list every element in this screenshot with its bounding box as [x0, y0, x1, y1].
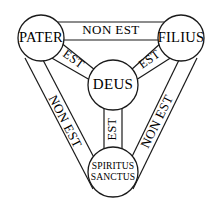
diagram-canvas: PATER FILIUS DEUS SPIRITUS SANCTUS NON E…	[0, 0, 222, 207]
band-label-pater-spiritus: NON EST	[45, 92, 85, 150]
band-label-pater-filius: NON EST	[82, 22, 139, 37]
band-label-pater-deus: EST	[60, 47, 87, 72]
node-label-spiritus-line1: SPIRITUS	[92, 160, 134, 171]
node-label-deus: DEUS	[93, 76, 133, 92]
node-label-pater: PATER	[19, 29, 63, 45]
node-label-spiritus-line2: SANCTUS	[91, 171, 135, 182]
band-label-spiritus-deus: EST	[105, 117, 119, 140]
node-label-filius: FILIUS	[158, 29, 204, 45]
band-filius-spiritus-edge-outer	[133, 58, 197, 189]
shield-of-the-trinity-diagram: PATER FILIUS DEUS SPIRITUS SANCTUS NON E…	[0, 0, 222, 207]
band-label-filius-deus: EST	[136, 47, 163, 72]
